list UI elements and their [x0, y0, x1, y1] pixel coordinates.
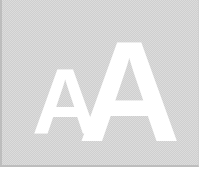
font-size-preview-panel: A A — [0, 0, 199, 167]
bottom-margin — [0, 169, 205, 184]
large-letter-a-icon: A — [78, 21, 181, 163]
